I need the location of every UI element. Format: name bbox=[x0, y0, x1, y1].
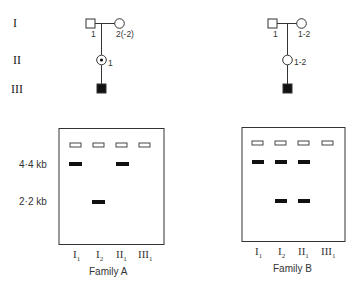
band-4-4kb bbox=[116, 162, 129, 166]
band-4-4kb bbox=[69, 162, 82, 166]
marker-2-2kb: 2·2 kb bbox=[19, 196, 47, 207]
figure: I II III 1 2(-2) 1 1 1-2 1-2 4·4 kb 2·2 … bbox=[0, 0, 354, 287]
female-circle-icon bbox=[297, 19, 307, 29]
band-4-4kb bbox=[252, 160, 264, 164]
band-2-2kb bbox=[298, 199, 310, 203]
label-B-II1: 1-2 bbox=[294, 57, 307, 67]
well-icon bbox=[298, 141, 309, 145]
band-2-2kb bbox=[92, 200, 105, 204]
well-icon bbox=[275, 141, 286, 145]
family-b-caption: Family B bbox=[273, 263, 312, 274]
carrier-dot-icon bbox=[100, 58, 103, 61]
female-circle-icon bbox=[283, 55, 293, 65]
well-icon bbox=[93, 143, 104, 147]
gel-family-a bbox=[59, 129, 164, 245]
label-A-I1: 1 bbox=[91, 29, 96, 39]
band-4-4kb bbox=[275, 160, 287, 164]
family-a-caption: Family A bbox=[89, 266, 128, 277]
lane-A-I1: I1 bbox=[73, 248, 81, 263]
generation-label-I: I bbox=[13, 16, 17, 30]
male-square-icon bbox=[268, 19, 277, 28]
affected-male-square-icon bbox=[283, 84, 292, 93]
band-4-4kb bbox=[298, 160, 310, 164]
lane-B-I1: I1 bbox=[255, 245, 263, 260]
affected-male-square-icon bbox=[97, 84, 106, 93]
generation-label-II: II bbox=[13, 53, 21, 67]
well-icon bbox=[252, 141, 263, 145]
well-icon bbox=[139, 143, 150, 147]
lane-A-I2: I2 bbox=[96, 248, 104, 263]
male-square-icon bbox=[86, 19, 95, 28]
label-B-I2: 1-2 bbox=[298, 29, 311, 39]
lane-A-II1: II1 bbox=[116, 248, 127, 263]
female-circle-icon bbox=[115, 19, 125, 29]
gel-family-b bbox=[242, 128, 345, 242]
well-icon bbox=[322, 141, 333, 145]
well-icon bbox=[116, 143, 127, 147]
label-A-I2: 2(-2) bbox=[116, 29, 134, 39]
well-icon bbox=[70, 143, 81, 147]
label-B-I1: 1 bbox=[273, 29, 278, 39]
lane-B-III1: III1 bbox=[321, 245, 336, 260]
lane-A-III1: III1 bbox=[138, 248, 153, 263]
lane-B-II1: II1 bbox=[298, 245, 309, 260]
band-2-2kb bbox=[275, 199, 287, 203]
lane-B-I2: I2 bbox=[278, 245, 286, 260]
marker-4-4kb: 4·4 kb bbox=[19, 159, 47, 170]
label-A-II1: 1 bbox=[108, 58, 113, 68]
generation-label-III: III bbox=[11, 82, 23, 96]
